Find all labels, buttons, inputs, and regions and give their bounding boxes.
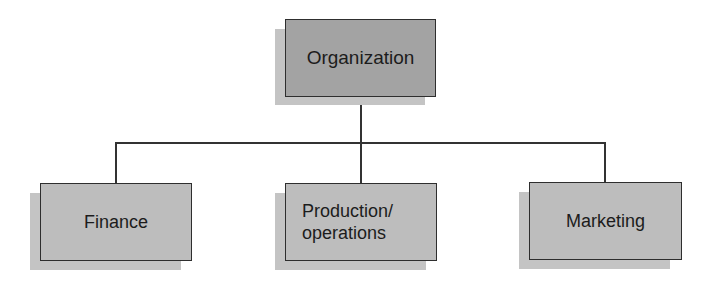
org-chart-diagram: Organization Finance Production/ operati… [0, 0, 722, 299]
node-production-operations: Production/ operations [285, 183, 437, 261]
node-finance: Finance [40, 183, 192, 261]
node-marketing: Marketing [529, 182, 682, 260]
connector-to-finance [115, 142, 117, 183]
node-label: Marketing [566, 210, 645, 232]
node-label: Organization [307, 47, 415, 69]
node-label: Production/ operations [302, 200, 393, 244]
node-organization: Organization [285, 19, 436, 97]
connector-to-marketing [604, 142, 606, 182]
connector-to-production [360, 142, 362, 183]
node-label: Finance [84, 211, 148, 233]
